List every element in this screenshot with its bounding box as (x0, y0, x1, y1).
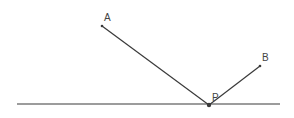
point-p (207, 103, 211, 107)
segment-a-p (102, 26, 209, 105)
label-p: P (212, 92, 219, 103)
point-a (101, 25, 104, 28)
reflection-diagram: A B P (0, 0, 294, 118)
label-a: A (104, 12, 111, 23)
label-b: B (262, 52, 269, 63)
point-b (259, 65, 262, 68)
